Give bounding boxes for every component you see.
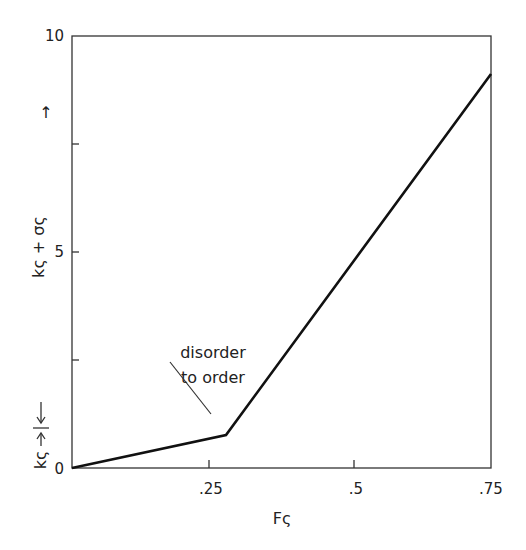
k-bracket bbox=[33, 402, 49, 446]
x-ticks bbox=[209, 460, 354, 468]
plot-frame bbox=[72, 36, 491, 468]
x-tick-label-025: .25 bbox=[199, 480, 223, 498]
annotation-line1: disorder bbox=[180, 343, 246, 362]
y-tick-label-0: 0 bbox=[54, 460, 64, 478]
x-tick-label-05: .5 bbox=[349, 480, 363, 498]
y-axis-label: kς + σς bbox=[29, 216, 48, 278]
data-line bbox=[72, 74, 491, 468]
annotation-line2: to order bbox=[181, 368, 245, 387]
y-tick-label-10: 10 bbox=[45, 27, 64, 45]
k-bracket-label: kς bbox=[31, 451, 50, 470]
y-tick-label-5: 5 bbox=[54, 243, 64, 261]
up-arrow-icon: ↑ bbox=[39, 103, 52, 122]
x-tick-label-075: .75 bbox=[479, 480, 503, 498]
y-ticks bbox=[72, 144, 79, 360]
chart: 10 5 0 .25 .5 .75 Fς kς + σς ↑ kς disord… bbox=[0, 0, 526, 550]
x-axis-label: Fς bbox=[273, 509, 292, 528]
